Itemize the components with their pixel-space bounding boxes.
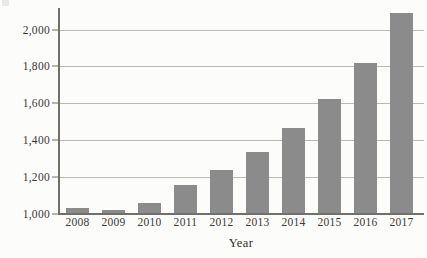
x-axis-tick-label-2013: 2013 — [245, 216, 269, 228]
x-axis-tick-label-2008: 2008 — [65, 216, 89, 228]
y-axis-tick-label: 2,000 — [23, 24, 50, 36]
bar-2014 — [282, 128, 305, 213]
y-axis-tick-label: 1,400 — [23, 134, 50, 146]
x-axis-tick-label-2014: 2014 — [281, 216, 305, 228]
bar-2017 — [390, 13, 413, 213]
x-axis-tick-label-2009: 2009 — [101, 216, 125, 228]
x-axis-line — [58, 213, 424, 215]
x-axis-tick-label-2016: 2016 — [353, 216, 377, 228]
bar-2013 — [246, 152, 269, 213]
bar-2012 — [210, 170, 233, 213]
plot-area — [58, 8, 424, 213]
y-axis-tick-label: 1,000 — [23, 208, 50, 220]
y-axis-tick-label: 1,800 — [23, 60, 50, 72]
bar-chart: 2,000 1,800 1,600 1,400 1,200 1,000 — [0, 0, 427, 258]
y-axis-tick-label: 1,200 — [23, 171, 50, 183]
x-axis-tick-label-2017: 2017 — [389, 216, 413, 228]
x-axis-tick-label-2010: 2010 — [137, 216, 161, 228]
x-axis-tick-label-2011: 2011 — [174, 216, 198, 228]
bar-2011 — [174, 185, 197, 213]
y-axis-tick-label: 1,600 — [23, 97, 50, 109]
x-axis-title: Year — [58, 236, 424, 251]
x-axis-tick-labels: 2008 2009 2010 2011 2012 2013 2014 2015 … — [58, 216, 424, 234]
bar-2016 — [354, 63, 377, 213]
bar-2010 — [138, 203, 161, 213]
y-axis-line — [58, 8, 60, 214]
x-axis-tick-label-2012: 2012 — [209, 216, 233, 228]
bar-2015 — [318, 99, 341, 213]
x-axis-tick-label-2015: 2015 — [317, 216, 341, 228]
bar-series — [58, 8, 424, 213]
y-axis-tick-labels: 2,000 1,800 1,600 1,400 1,200 1,000 — [0, 0, 58, 258]
